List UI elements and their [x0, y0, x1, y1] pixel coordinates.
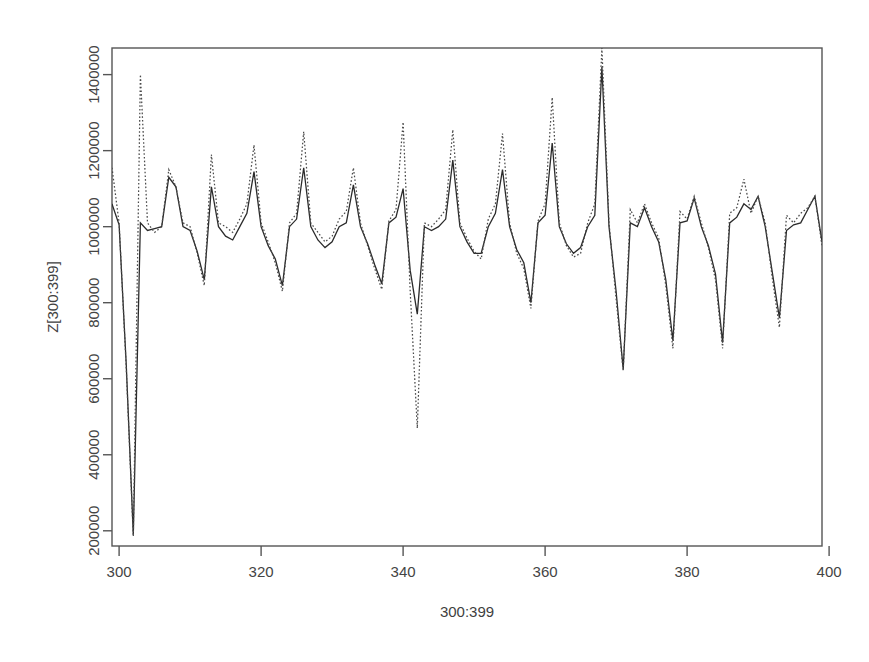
x-axis-label: 300:399 [440, 603, 494, 620]
y-tick-label: 600000 [85, 354, 102, 404]
y-tick-label: 200000 [85, 506, 102, 556]
x-tick-label: 320 [249, 563, 274, 580]
x-tick-label: 340 [391, 563, 416, 580]
x-tick-label: 360 [533, 563, 558, 580]
y-tick-label: 400000 [85, 430, 102, 480]
x-tick-label: 300 [107, 563, 132, 580]
y-axis-label: Z[300:399] [44, 261, 61, 333]
x-tick-label: 380 [675, 563, 700, 580]
r-plot-canvas: 2000004000006000008000001000000120000014… [0, 0, 869, 662]
y-tick-label: 1000000 [85, 197, 102, 255]
y-tick-label: 1200000 [85, 121, 102, 179]
x-tick-label: 400 [817, 563, 842, 580]
chart-page: 2000004000006000008000001000000120000014… [0, 0, 869, 662]
y-tick-label: 800000 [85, 278, 102, 328]
y-tick-label: 1400000 [85, 45, 102, 103]
